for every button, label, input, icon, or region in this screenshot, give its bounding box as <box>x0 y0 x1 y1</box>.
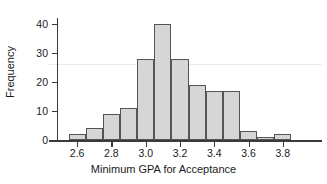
histogram-bar <box>171 59 188 140</box>
x-tick-label: 3.2 <box>165 148 195 159</box>
y-tick-mark <box>52 82 57 83</box>
histogram-bar <box>137 59 154 140</box>
histogram-bar <box>206 91 223 140</box>
x-tick-mark <box>77 142 78 147</box>
x-tick-mark <box>146 142 147 147</box>
histogram-bar <box>154 24 171 140</box>
x-tick-mark <box>111 142 112 147</box>
histogram-bar <box>223 91 240 140</box>
histogram-bar <box>103 114 120 140</box>
x-tick-mark <box>180 142 181 147</box>
y-tick-mark <box>52 53 57 54</box>
x-tick-label: 2.6 <box>62 148 92 159</box>
histogram-bar <box>69 134 86 140</box>
histogram-bar <box>274 134 291 140</box>
histogram-bar <box>189 85 206 140</box>
x-tick-mark <box>214 142 215 147</box>
histogram-bar <box>240 131 257 140</box>
y-tick-mark <box>52 111 57 112</box>
y-tick-mark <box>52 140 57 141</box>
y-axis-line <box>57 18 58 141</box>
plot-area <box>60 18 300 140</box>
histogram-bar <box>257 137 274 140</box>
y-tick-label: 30 <box>26 48 48 58</box>
histogram-bar <box>120 108 137 140</box>
x-tick-label: 2.8 <box>96 148 126 159</box>
y-tick-label: 20 <box>26 77 48 87</box>
y-tick-mark <box>52 24 57 25</box>
histogram-chart: 010203040 2.62.83.03.23.43.63.8 Minimum … <box>0 0 327 184</box>
x-tick-mark <box>249 142 250 147</box>
x-tick-label: 3.0 <box>131 148 161 159</box>
x-axis-title: Minimum GPA for Acceptance <box>0 163 327 175</box>
histogram-bar <box>86 128 103 140</box>
y-tick-label: 0 <box>26 135 48 145</box>
x-tick-mark <box>283 142 284 147</box>
x-axis-line <box>49 140 322 141</box>
x-tick-label: 3.4 <box>199 148 229 159</box>
y-axis-title: Frequency <box>4 34 16 110</box>
x-tick-label: 3.8 <box>268 148 298 159</box>
y-tick-label: 40 <box>26 19 48 29</box>
x-tick-label: 3.6 <box>234 148 264 159</box>
y-tick-label: 10 <box>26 106 48 116</box>
